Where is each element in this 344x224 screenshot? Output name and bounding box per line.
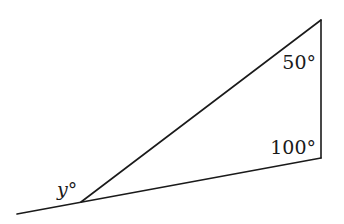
angle-label-top: 50° bbox=[282, 51, 316, 73]
angle-label-right: 100° bbox=[270, 136, 316, 158]
angle-label-exterior-y: y° bbox=[56, 178, 77, 200]
triangle-diagram: 50° 100° y° bbox=[0, 0, 344, 224]
hypotenuse-edge bbox=[81, 20, 321, 202]
